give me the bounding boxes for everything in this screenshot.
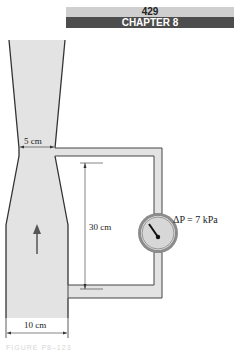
inlet-diameter-label: 10 cm [24,320,46,330]
venturi-diagram [0,0,234,354]
pressure-diff-label: ΔP = 7 kPa [173,214,218,225]
pressure-gauge [138,213,178,253]
figure-caption: FIGURE P8–123 [6,344,72,351]
lower-tap-tube [68,252,162,298]
throat-diameter-label: 5 cm [24,136,42,146]
upper-tap-tube [55,148,162,214]
tap-separation-label: 30 cm [89,222,111,232]
